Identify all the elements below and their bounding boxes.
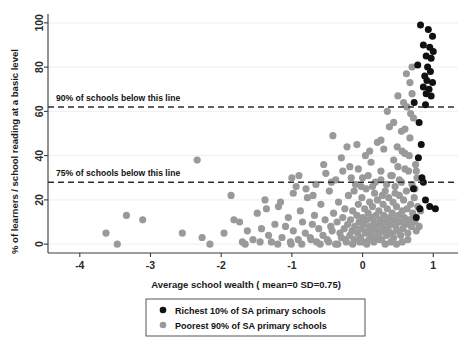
data-point bbox=[359, 174, 366, 181]
data-point bbox=[415, 154, 422, 161]
data-point bbox=[358, 183, 365, 190]
x-tick-label: -4 bbox=[75, 259, 84, 271]
data-point bbox=[399, 148, 406, 155]
x-tick-label: -1 bbox=[287, 259, 296, 271]
data-point bbox=[282, 223, 289, 230]
data-point bbox=[330, 210, 337, 217]
data-point bbox=[432, 205, 439, 212]
legend: Richest 10% of SA primary schools Poores… bbox=[146, 299, 365, 336]
data-point bbox=[367, 159, 374, 166]
data-point bbox=[400, 196, 407, 203]
data-point bbox=[278, 234, 285, 241]
data-point bbox=[309, 221, 316, 228]
data-point bbox=[355, 201, 362, 208]
data-point bbox=[403, 70, 410, 77]
data-point bbox=[299, 218, 306, 225]
x-axis-title: Average school wealth ( mean=0 SD=0.75) bbox=[151, 279, 341, 290]
data-point bbox=[370, 238, 377, 245]
data-point bbox=[285, 214, 292, 221]
data-point bbox=[287, 238, 294, 245]
data-point bbox=[407, 201, 414, 208]
data-point bbox=[417, 22, 424, 29]
data-point bbox=[363, 241, 370, 248]
data-point bbox=[307, 236, 314, 243]
data-point bbox=[256, 238, 263, 245]
data-point bbox=[379, 192, 386, 199]
data-point bbox=[339, 168, 346, 175]
data-point bbox=[199, 234, 206, 241]
data-point bbox=[338, 154, 345, 161]
data-point bbox=[427, 68, 434, 75]
data-point bbox=[425, 26, 432, 33]
data-point bbox=[343, 143, 350, 150]
data-point bbox=[123, 212, 130, 219]
data-point bbox=[390, 119, 397, 126]
data-point bbox=[329, 227, 336, 234]
legend-label-poorest: Poorest 90% of SA primary schools bbox=[175, 321, 327, 331]
data-point bbox=[406, 134, 413, 141]
data-point bbox=[342, 236, 349, 243]
data-point bbox=[413, 168, 420, 175]
data-point bbox=[401, 165, 408, 172]
data-point bbox=[408, 90, 415, 97]
x-tick-label: 1 bbox=[430, 259, 436, 271]
data-point bbox=[356, 238, 363, 245]
y-tick-label: 20 bbox=[33, 194, 45, 206]
data-point bbox=[293, 183, 300, 190]
legend-marker-poorest bbox=[160, 322, 167, 329]
x-tick-label: 0 bbox=[360, 259, 366, 271]
y-tick-label: 60 bbox=[33, 105, 45, 117]
data-point bbox=[317, 241, 324, 248]
y-tick-label: 40 bbox=[33, 150, 45, 162]
data-point bbox=[369, 183, 376, 190]
data-point bbox=[114, 241, 121, 248]
data-point bbox=[377, 168, 384, 175]
data-point bbox=[271, 221, 278, 228]
data-point bbox=[329, 132, 336, 139]
data-point bbox=[428, 55, 435, 62]
data-point bbox=[322, 216, 329, 223]
data-point bbox=[309, 192, 316, 199]
data-point bbox=[391, 190, 398, 197]
data-point bbox=[353, 141, 360, 148]
data-point bbox=[227, 192, 234, 199]
data-point bbox=[302, 185, 309, 192]
data-point bbox=[416, 119, 423, 126]
data-point bbox=[265, 232, 272, 239]
data-point bbox=[139, 216, 146, 223]
data-point bbox=[369, 203, 376, 210]
data-point bbox=[322, 170, 329, 177]
data-point bbox=[428, 92, 435, 99]
y-axis-title: % of learners / school reading at a basi… bbox=[9, 49, 20, 254]
data-point bbox=[244, 227, 251, 234]
data-point bbox=[411, 99, 418, 106]
data-point bbox=[358, 194, 365, 201]
data-point bbox=[249, 236, 256, 243]
data-point bbox=[394, 92, 401, 99]
scatter-plot-figure: 020406080100 -4-3-2-101 90% of schools b… bbox=[0, 0, 464, 348]
data-point bbox=[412, 161, 419, 168]
data-point bbox=[348, 174, 355, 181]
data-point bbox=[268, 238, 275, 245]
data-point bbox=[347, 216, 354, 223]
chart-canvas: 020406080100 -4-3-2-101 90% of schools b… bbox=[0, 0, 464, 348]
data-point bbox=[254, 210, 261, 217]
data-point bbox=[391, 183, 398, 190]
data-point bbox=[350, 187, 357, 194]
data-point bbox=[390, 156, 397, 163]
data-point bbox=[429, 79, 436, 86]
data-point bbox=[430, 48, 437, 55]
data-point bbox=[295, 172, 302, 179]
data-point bbox=[394, 163, 401, 170]
data-point bbox=[290, 227, 297, 234]
data-point bbox=[401, 125, 408, 132]
data-point bbox=[403, 187, 410, 194]
data-point bbox=[326, 187, 333, 194]
data-point bbox=[397, 232, 404, 239]
data-point bbox=[406, 152, 413, 159]
data-point bbox=[414, 61, 421, 68]
data-point bbox=[407, 110, 414, 117]
data-point bbox=[339, 214, 346, 221]
data-point bbox=[325, 238, 332, 245]
data-point bbox=[355, 165, 362, 172]
